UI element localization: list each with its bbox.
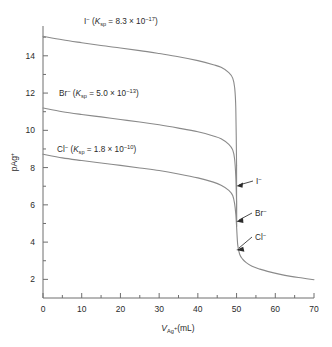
x-axis-title: VAg+(mL) (161, 323, 194, 334)
x-tick-label: 40 (193, 304, 203, 314)
chart-background (0, 0, 332, 347)
x-tick-label: 10 (77, 304, 87, 314)
x-tick-label: 70 (309, 304, 319, 314)
y-tick-label: 12 (26, 88, 36, 98)
x-tick-label: 50 (232, 304, 242, 314)
x-tick-label: 60 (271, 304, 281, 314)
x-tick-label: 0 (41, 304, 46, 314)
y-tick-label: 2 (30, 274, 35, 284)
y-tick-label: 14 (26, 51, 36, 61)
y-tick-label: 6 (30, 200, 35, 210)
bromide-ion-text: Br (59, 89, 67, 98)
y-tick-label: 10 (26, 125, 36, 135)
y-tick-label: 8 (30, 163, 35, 173)
x-tick-label: 30 (154, 304, 164, 314)
y-tick-label: 4 (30, 237, 35, 247)
chart-figure: 010203040506070 2468101214 I− (Ksp = 8.3… (0, 0, 332, 347)
x-tick-label: 20 (116, 304, 126, 314)
chloride-ion-text: Cl (57, 145, 65, 154)
titration-curve-chart: 010203040506070 2468101214 I− (Ksp = 8.3… (0, 0, 332, 347)
